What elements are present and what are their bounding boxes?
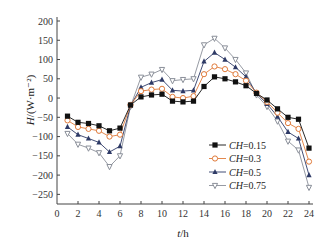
triangle-down-marker-icon [212, 183, 217, 188]
y-tick-label: −150 [32, 150, 53, 161]
square-marker-icon [275, 106, 280, 111]
circle-marker-icon [149, 87, 154, 92]
circle-marker-icon [75, 124, 80, 129]
circle-marker-icon [107, 134, 112, 139]
x-axis-title: t/h [177, 227, 189, 239]
square-marker-icon [96, 123, 101, 128]
square-marker-icon [296, 117, 301, 122]
y-tick-label: 100 [38, 54, 53, 65]
square-marker-icon [306, 146, 311, 151]
legend-label: CH=0.3 [229, 153, 261, 164]
x-tick-label: 10 [157, 208, 167, 219]
square-marker-icon [128, 102, 133, 107]
y-tick-label: −250 [32, 189, 53, 200]
square-marker-icon [75, 120, 80, 125]
triangle-up-marker-icon [222, 56, 227, 61]
legend-label: CH=0.75 [229, 180, 266, 191]
circle-marker-icon [233, 72, 238, 77]
triangle-up-marker-icon [75, 132, 80, 137]
x-tick-label: 20 [262, 208, 272, 219]
legend-label: CH=0.15 [229, 140, 266, 151]
triangle-up-marker-icon [212, 169, 217, 174]
legend-label: CH=0.5 [229, 167, 261, 178]
legend-item: CH=0.5 [209, 167, 261, 178]
square-marker-icon [212, 142, 217, 147]
square-marker-icon [86, 121, 91, 126]
x-tick-label: 24 [304, 208, 314, 219]
triangle-up-marker-icon [65, 124, 70, 129]
circle-marker-icon [285, 120, 290, 125]
circle-marker-icon [86, 126, 91, 131]
triangle-up-marker-icon [306, 172, 311, 177]
triangle-up-marker-icon [296, 135, 301, 140]
square-marker-icon [212, 74, 217, 79]
y-tick-label: 200 [38, 16, 53, 27]
square-marker-icon [65, 114, 70, 119]
legend-item: CH=0.15 [209, 140, 266, 151]
triangle-down-marker-icon [138, 75, 143, 80]
circle-marker-icon [159, 86, 164, 91]
legend-item: CH=0.75 [209, 180, 266, 191]
x-tick-label: 22 [283, 208, 293, 219]
circle-marker-icon [96, 128, 101, 133]
triangle-up-marker-icon [159, 76, 164, 81]
axes: 200150100500−50−100−150−200−250024681012… [32, 16, 314, 220]
x-tick-label: 18 [241, 208, 251, 219]
series-line [68, 38, 310, 187]
square-marker-icon [191, 99, 196, 104]
y-tick-label: 0 [48, 93, 53, 104]
square-marker-icon [180, 99, 185, 104]
square-marker-icon [222, 76, 227, 81]
circle-marker-icon [296, 126, 301, 131]
x-tick-label: 2 [76, 208, 81, 219]
circle-marker-icon [243, 78, 248, 83]
legend-item: CH=0.3 [209, 153, 261, 164]
x-tick-label: 6 [118, 208, 123, 219]
y-tick-label: 50 [43, 73, 53, 84]
triangle-up-marker-icon [201, 58, 206, 63]
x-tick-label: 0 [55, 208, 60, 219]
circle-marker-icon [138, 89, 143, 94]
triangle-down-marker-icon [170, 79, 175, 84]
series-line [68, 77, 310, 148]
square-marker-icon [138, 94, 143, 99]
circle-marker-icon [222, 67, 227, 72]
square-marker-icon [264, 97, 269, 102]
circle-marker-icon [212, 64, 217, 69]
triangle-down-marker-icon [75, 142, 80, 147]
square-marker-icon [243, 83, 248, 88]
series-group [65, 36, 312, 190]
triangle-down-marker-icon [86, 146, 91, 151]
circle-marker-icon [117, 132, 122, 137]
triangle-down-marker-icon [306, 185, 311, 190]
circle-marker-icon [212, 156, 217, 161]
triangle-down-marker-icon [191, 77, 196, 82]
square-marker-icon [107, 128, 112, 133]
y-tick-label: −100 [32, 131, 53, 142]
square-marker-icon [285, 115, 290, 120]
triangle-down-marker-icon [285, 139, 290, 144]
triangle-down-marker-icon [107, 165, 112, 170]
y-tick-label: −200 [32, 170, 53, 181]
x-tick-label: 14 [199, 208, 209, 219]
line-chart: 200150100500−50−100−150−200−250024681012… [0, 0, 332, 251]
triangle-down-marker-icon [296, 148, 301, 153]
square-marker-icon [117, 126, 122, 131]
x-tick-label: 16 [220, 208, 230, 219]
triangle-down-marker-icon [212, 36, 217, 41]
x-tick-label: 8 [139, 208, 144, 219]
triangle-down-marker-icon [201, 43, 206, 48]
square-marker-icon [201, 84, 206, 89]
x-tick-label: 4 [97, 208, 102, 219]
triangle-down-marker-icon [180, 77, 185, 82]
x-tick-label: 12 [178, 208, 188, 219]
square-marker-icon [170, 99, 175, 104]
square-marker-icon [159, 92, 164, 97]
y-axis-title: H/(W·m⁻²) [24, 75, 37, 127]
triangle-up-marker-icon [212, 49, 217, 54]
square-marker-icon [149, 92, 154, 97]
triangle-down-marker-icon [149, 72, 154, 77]
legend: CH=0.15CH=0.3CH=0.5CH=0.75 [209, 140, 266, 192]
circle-marker-icon [306, 159, 311, 164]
circle-marker-icon [201, 72, 206, 77]
